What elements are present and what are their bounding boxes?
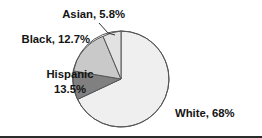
slice-label-asian: Asian, 5.8% xyxy=(62,8,125,20)
slice-label-hispanic-line1: Hispanic xyxy=(46,68,93,80)
slice-label-white: White, 68% xyxy=(175,107,235,119)
bottom-divider xyxy=(0,136,262,138)
pie-chart-figure: Asian, 5.8% Black, 12.7% Hispanic 13.5% … xyxy=(0,0,262,138)
pie-chart-svg: Asian, 5.8% Black, 12.7% Hispanic 13.5% … xyxy=(0,0,262,138)
slice-label-hispanic-line2: 13.5% xyxy=(54,83,86,95)
slice-label-black: Black, 12.7% xyxy=(22,33,90,45)
